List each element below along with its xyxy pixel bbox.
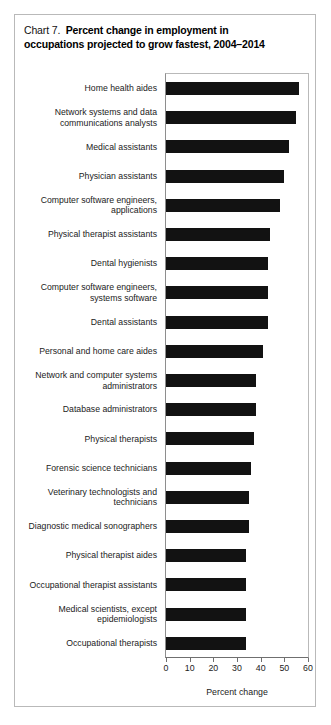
- x-axis-tick: [261, 658, 262, 662]
- category-label-line: administrators: [102, 381, 157, 392]
- bar: [166, 286, 268, 299]
- bar-row: Computer software engineers,applications: [15, 191, 309, 220]
- bar-row: Database administrators: [15, 395, 309, 424]
- category-label-line: Physician assistants: [79, 171, 157, 182]
- category-label-line: applications: [111, 205, 157, 216]
- bar: [166, 578, 246, 591]
- x-axis-tick: [190, 658, 191, 662]
- bar-track: [166, 249, 309, 278]
- category-label: Physical therapists: [15, 424, 161, 453]
- category-label: Database administrators: [15, 395, 161, 424]
- bar-track: [166, 512, 309, 541]
- bar: [166, 403, 256, 416]
- bar: [166, 520, 249, 533]
- x-axis-tick: [213, 658, 214, 662]
- chart-figure-frame: Chart 7. Percent change in employment in…: [14, 14, 316, 707]
- bar-track: [166, 74, 309, 103]
- x-axis-title: Percent change: [165, 687, 309, 697]
- category-label-line: Physical therapist assistants: [48, 229, 157, 240]
- category-label: Dental hygienists: [15, 249, 161, 278]
- category-label-line: Medical scientists, except: [59, 604, 158, 615]
- x-axis-tick-label: 60: [303, 663, 313, 673]
- chart-title-text-line-1: Percent change in employment in: [66, 24, 229, 36]
- bar: [166, 140, 289, 153]
- category-label: Network systems and datacommunications a…: [15, 103, 161, 132]
- bar: [166, 608, 246, 621]
- bar-row: Diagnostic medical sonographers: [15, 512, 309, 541]
- category-label-line: Forensic science technicians: [46, 463, 157, 474]
- x-axis-tick: [237, 658, 238, 662]
- x-axis-tick-label: 10: [185, 663, 195, 673]
- bar-row: Medical assistants: [15, 132, 309, 161]
- bar-track: [166, 366, 309, 395]
- bar-track: [166, 337, 309, 366]
- category-label-line: Dental hygienists: [91, 258, 157, 269]
- bar: [166, 549, 246, 562]
- bar: [166, 491, 249, 504]
- bar: [166, 432, 254, 445]
- category-label-line: Database administrators: [63, 404, 157, 415]
- category-label-line: Network systems and data: [55, 107, 157, 118]
- bar-track: [166, 191, 309, 220]
- category-label-line: systems software: [90, 293, 157, 304]
- bar-track: [166, 103, 309, 132]
- bar-track: [166, 570, 309, 599]
- bar-row: Dental assistants: [15, 308, 309, 337]
- category-label-line: Veterinary technologists and: [48, 487, 157, 498]
- bar-track: [166, 541, 309, 570]
- bar: [166, 637, 246, 650]
- category-label: Occupational therapist assistants: [15, 570, 161, 599]
- category-label-line: communications analysts: [60, 118, 157, 129]
- bar-row: Physical therapist assistants: [15, 220, 309, 249]
- x-axis-tick-label: 20: [208, 663, 218, 673]
- bar: [166, 316, 268, 329]
- category-label-line: Personal and home care aides: [39, 346, 157, 357]
- bar-row: Veterinary technologists andtechnicians: [15, 483, 309, 512]
- category-label: Dental assistants: [15, 308, 161, 337]
- bar-track: [166, 600, 309, 629]
- chart-title-block: Chart 7. Percent change in employment in…: [24, 23, 309, 51]
- category-label: Computer software engineers,systems soft…: [15, 278, 161, 307]
- category-label-line: Computer software engineers,: [41, 282, 157, 293]
- category-label: Physical therapist aides: [15, 541, 161, 570]
- category-label-line: Diagnostic medical sonographers: [29, 521, 157, 532]
- bar-row: Forensic science technicians: [15, 454, 309, 483]
- bar-track: [166, 395, 309, 424]
- bar-track: [166, 629, 309, 658]
- category-label-line: Computer software engineers,: [41, 195, 157, 206]
- x-axis-tick-label: 50: [279, 663, 289, 673]
- bar-row: Physical therapist aides: [15, 541, 309, 570]
- x-axis-tick: [166, 658, 167, 662]
- bar-row: Computer software engineers,systems soft…: [15, 278, 309, 307]
- category-label-line: Medical assistants: [86, 142, 157, 153]
- bar-track: [166, 483, 309, 512]
- category-label-line: Home health aides: [85, 83, 157, 94]
- x-axis: 0102030405060: [165, 658, 309, 674]
- chart-title-text-line-2: occupations projected to grow fastest, 2…: [24, 38, 265, 50]
- bar-row: Dental hygienists: [15, 249, 309, 278]
- chart-title-line-2: occupations projected to grow fastest, 2…: [24, 37, 309, 51]
- x-axis-tick: [308, 658, 309, 662]
- category-label: Home health aides: [15, 74, 161, 103]
- plot-wrapper: Home health aidesNetwork systems and dat…: [15, 59, 315, 707]
- bar: [166, 170, 284, 183]
- bar-row: Personal and home care aides: [15, 337, 309, 366]
- chart-number-label: Chart 7.: [24, 24, 60, 36]
- bar-row: Network and computer systemsadministrato…: [15, 366, 309, 395]
- category-label-line: Dental assistants: [91, 317, 157, 328]
- category-label-line: Physical therapists: [85, 434, 157, 445]
- bar-row: Occupational therapists: [15, 629, 309, 658]
- category-label: Physical therapist assistants: [15, 220, 161, 249]
- bar: [166, 82, 299, 95]
- bar-row: Medical scientists, exceptepidemiologist…: [15, 600, 309, 629]
- category-label-line: Network and computer systems: [35, 370, 157, 381]
- category-label-line: epidemiologists: [97, 614, 157, 625]
- category-label-line: Occupational therapist assistants: [30, 580, 157, 591]
- category-label: Occupational therapists: [15, 629, 161, 658]
- category-label: Physician assistants: [15, 162, 161, 191]
- bar: [166, 111, 296, 124]
- bar-row: Physical therapists: [15, 424, 309, 453]
- x-axis-tick-label: 30: [232, 663, 242, 673]
- category-label: Computer software engineers,applications: [15, 191, 161, 220]
- x-axis-tick-label: 0: [164, 663, 169, 673]
